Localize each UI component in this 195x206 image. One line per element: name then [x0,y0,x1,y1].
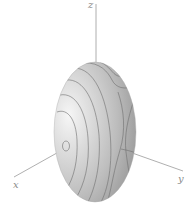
z-axis-label: z [88,0,93,10]
x-axis-label: x [13,180,19,190]
ellipsoid-surface [54,62,136,204]
ellipsoid-diagram [0,0,195,206]
y-axis-label: y [178,174,184,184]
